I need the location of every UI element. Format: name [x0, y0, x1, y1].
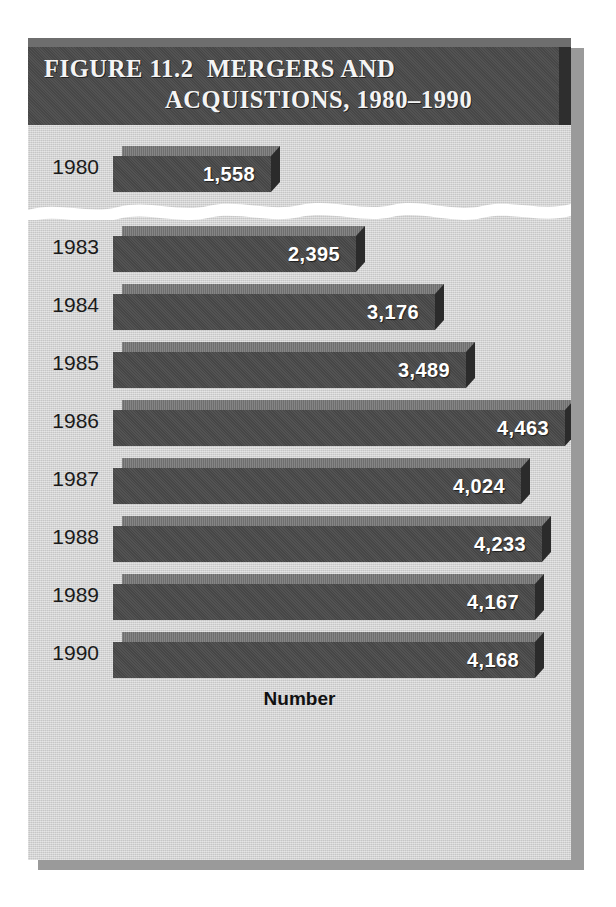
bar-top-face	[122, 226, 365, 236]
chart-panel: FIGURE 11.2 MERGERS AND ACQUISTIONS, 198…	[28, 38, 571, 860]
bar-top-face	[122, 632, 544, 642]
bar-year-label: 1985	[28, 334, 108, 392]
bar-row: 19853,489	[28, 334, 571, 392]
bar-row: 19801,558	[28, 138, 571, 196]
bar-top-face	[122, 400, 571, 410]
x-axis-label: Number	[28, 688, 571, 710]
bar[interactable]: 4,168	[113, 632, 535, 678]
bar-year-label: 1983	[28, 218, 108, 276]
bar-row: 19894,167	[28, 566, 571, 624]
panel-shadow-bottom	[38, 860, 584, 870]
bar-value-label: 4,463	[497, 410, 549, 446]
bar-top-face	[122, 458, 530, 468]
title-bar-top-bevel	[28, 38, 571, 47]
bar[interactable]: 1,558	[113, 146, 271, 192]
bar-value-label: 3,489	[398, 352, 450, 388]
bar-year-label: 1984	[28, 276, 108, 334]
bar-year-label: 1986	[28, 392, 108, 450]
bar-year-label: 1989	[28, 566, 108, 624]
title-bar-end-cap	[559, 47, 571, 125]
bar-value-label: 3,176	[367, 294, 419, 330]
bar-value-label: 4,233	[474, 526, 526, 562]
bar-top-face	[122, 574, 544, 584]
panel-shadow-right	[571, 48, 584, 870]
bar-year-label: 1990	[28, 624, 108, 682]
bar[interactable]: 3,489	[113, 342, 466, 388]
bar-year-label: 1988	[28, 508, 108, 566]
bar-value-label: 2,395	[288, 236, 340, 272]
bar-year-label: 1980	[28, 138, 108, 196]
bar-value-label: 4,167	[467, 584, 519, 620]
bar-value-label: 1,558	[203, 156, 255, 192]
bar[interactable]: 4,024	[113, 458, 521, 504]
axis-break-band	[28, 194, 571, 220]
bar[interactable]: 2,395	[113, 226, 356, 272]
bar-year-label: 1987	[28, 450, 108, 508]
figure-title-bar: FIGURE 11.2 MERGERS AND ACQUISTIONS, 198…	[28, 38, 571, 130]
bar-top-face	[122, 516, 551, 526]
bar-top-face	[122, 146, 280, 156]
bar[interactable]: 4,463	[113, 400, 565, 446]
bar-row: 19832,395	[28, 218, 571, 276]
bar-value-label: 4,168	[467, 642, 519, 678]
bar-row: 19864,463	[28, 392, 571, 450]
bar[interactable]: 4,233	[113, 516, 542, 562]
figure-title: FIGURE 11.2 MERGERS AND ACQUISTIONS, 198…	[28, 47, 559, 125]
bar[interactable]: 4,167	[113, 574, 535, 620]
bar-row: 19843,176	[28, 276, 571, 334]
bar-row: 19904,168	[28, 624, 571, 682]
bar-top-face	[122, 284, 444, 294]
bar-row: 19874,024	[28, 450, 571, 508]
plot-area: Number 19801,55819832,39519843,17619853,…	[28, 130, 571, 860]
bar-row: 19884,233	[28, 508, 571, 566]
figure-title-line-2: ACQUISTIONS, 1980–1990	[44, 84, 545, 115]
bar-value-label: 4,024	[453, 468, 505, 504]
bar-top-face	[122, 342, 475, 352]
bar[interactable]: 3,176	[113, 284, 435, 330]
figure-panel: FIGURE 11.2 MERGERS AND ACQUISTIONS, 198…	[28, 38, 584, 870]
figure-title-line-1: FIGURE 11.2 MERGERS AND	[44, 53, 545, 84]
